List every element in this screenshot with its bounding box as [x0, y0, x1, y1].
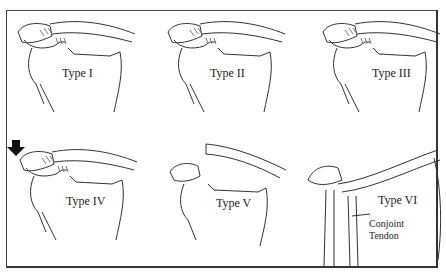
label-type-4: Type IV	[66, 194, 105, 209]
label-type-1: Type I	[62, 66, 93, 81]
panel-type-6-drawing	[308, 150, 441, 266]
callout-conjoint: Conjoint	[369, 218, 404, 229]
down-arrow-icon	[7, 140, 25, 156]
label-type-2: Type II	[210, 66, 245, 81]
label-type-5: Type V	[216, 196, 251, 211]
label-type-3: Type III	[372, 66, 411, 81]
callout-tendon: Tendon	[369, 230, 399, 241]
label-type-6: Type VI	[378, 193, 417, 208]
panel-type-5-drawing	[170, 144, 286, 246]
